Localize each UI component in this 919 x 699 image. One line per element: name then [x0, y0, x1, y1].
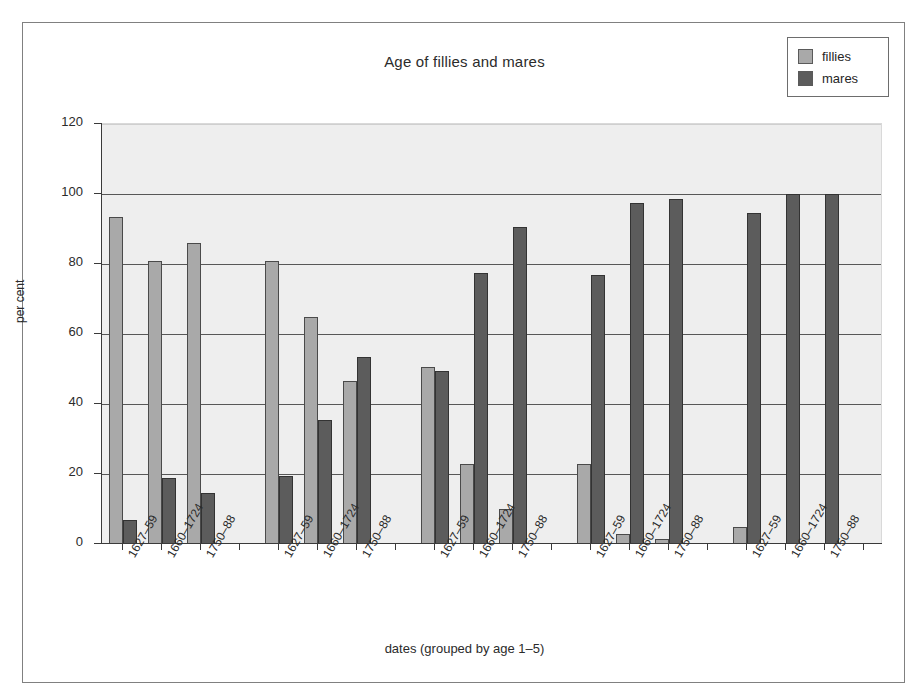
legend-label-mares: mares — [822, 71, 858, 86]
legend-item-fillies: fillies — [798, 45, 880, 67]
bar-mares — [435, 371, 449, 544]
x-axis-tick — [395, 543, 396, 550]
y-axis-tick — [94, 403, 101, 404]
chart-legend: fillies mares — [787, 37, 889, 97]
bar-fillies — [109, 217, 123, 544]
y-axis-tick-label: 100 — [49, 184, 83, 199]
chart-frame: Age of fillies and mares fillies mares p… — [22, 22, 905, 683]
x-axis-tick — [239, 543, 240, 550]
x-axis-tick — [707, 543, 708, 550]
x-axis-tick — [161, 543, 162, 550]
y-axis-tick-label: 120 — [49, 114, 83, 129]
y-axis-tick — [94, 473, 101, 474]
y-axis-tick-label: 40 — [49, 394, 83, 409]
bar-fillies — [148, 261, 162, 545]
y-axis-tick-label: 60 — [49, 324, 83, 339]
x-axis-tick — [590, 543, 591, 550]
bar-mares — [318, 420, 332, 544]
legend-item-mares: mares — [798, 67, 880, 89]
bar-mares — [474, 273, 488, 544]
bar-mares — [357, 357, 371, 544]
x-axis-tick — [317, 543, 318, 550]
bar-fillies — [733, 527, 747, 545]
x-axis-tick — [434, 543, 435, 550]
x-axis-tick — [473, 543, 474, 550]
bar-fillies — [421, 367, 435, 544]
bar-mares — [591, 275, 605, 545]
bar-fillies — [577, 464, 591, 545]
bar-fillies — [187, 243, 201, 544]
bar-mares — [630, 203, 644, 544]
bar-mares — [825, 194, 839, 544]
bar-mares — [669, 199, 683, 544]
legend-swatch-mares — [798, 71, 813, 86]
bar-fillies — [265, 261, 279, 545]
x-axis-tick — [356, 543, 357, 550]
x-axis-tick — [122, 543, 123, 550]
legend-swatch-fillies — [798, 49, 813, 64]
x-axis-tick — [863, 543, 864, 550]
y-axis-line — [101, 123, 102, 544]
x-axis-tick — [629, 543, 630, 550]
bar-mares — [786, 194, 800, 544]
y-axis-tick-label: 0 — [49, 534, 83, 549]
x-axis-title: dates (grouped by age 1–5) — [23, 641, 906, 656]
x-axis-tick — [746, 543, 747, 550]
y-axis-tick — [94, 193, 101, 194]
bar-fillies — [304, 317, 318, 545]
x-axis-tick — [785, 543, 786, 550]
bar-mares — [513, 227, 527, 544]
x-axis-tick — [278, 543, 279, 550]
x-axis-tick — [200, 543, 201, 550]
legend-label-fillies: fillies — [822, 49, 851, 64]
y-axis-tick-label: 80 — [49, 254, 83, 269]
y-axis-tick-label: 20 — [49, 464, 83, 479]
bar-series-container — [101, 124, 881, 544]
bar-mares — [747, 213, 761, 544]
x-axis-tick — [551, 543, 552, 550]
y-axis-tick — [94, 543, 101, 544]
y-axis-title: per cent — [13, 280, 27, 323]
y-axis-tick — [94, 333, 101, 334]
chart-title: Age of fillies and mares — [23, 53, 906, 70]
x-axis-tick — [668, 543, 669, 550]
x-axis-tick — [512, 543, 513, 550]
y-axis-tick — [94, 263, 101, 264]
x-axis-tick — [824, 543, 825, 550]
plot-area — [101, 123, 882, 544]
y-axis-tick — [94, 123, 101, 124]
